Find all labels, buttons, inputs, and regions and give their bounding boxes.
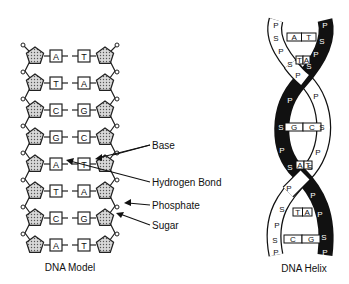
label-hydrogen-bond: Hydrogen Bond	[152, 177, 222, 188]
phosphate-letter: P	[313, 50, 318, 59]
phosphate-letter: P	[274, 221, 279, 230]
phosphate-left	[21, 124, 25, 128]
sugar-left	[26, 47, 43, 63]
phosphate-letter: P	[278, 47, 283, 56]
base-letter-left: A	[53, 241, 59, 251]
base-letter-right: T	[81, 52, 87, 62]
helix-base-pair: CG	[284, 235, 320, 244]
phosphate-right	[115, 178, 119, 182]
phosphate-letter: P	[310, 191, 315, 200]
phosphate-left	[21, 97, 25, 101]
phosphate-letter: P	[313, 92, 318, 101]
base-pair-row: CG	[21, 205, 119, 225]
label-base: Base	[152, 140, 175, 151]
sugar-right	[96, 47, 113, 63]
sugar-letter: S	[306, 62, 311, 71]
phosphate-letter: P	[287, 96, 292, 105]
base-letter-left: G	[52, 133, 59, 143]
sugar-letter: S	[272, 236, 277, 245]
dna-model: ATTACGGCATTACGAT	[21, 43, 119, 252]
base-pair-row: TA	[21, 70, 119, 90]
phosphate-letter: P	[279, 146, 284, 155]
base-pair-row: TA	[21, 178, 119, 198]
phosphate-letter: P	[317, 210, 322, 219]
phosphate-right	[115, 205, 119, 209]
sugar-letter: S	[319, 123, 324, 132]
caption-dna-model: DNA Model	[45, 262, 96, 273]
base-letter-right: C	[81, 133, 88, 143]
sugar-letter: S	[321, 233, 326, 242]
phosphate-letter: P	[286, 184, 291, 193]
base-pair-row: CG	[21, 97, 119, 117]
svg-text:G: G	[291, 123, 297, 132]
svg-text:G: G	[308, 235, 314, 244]
phosphate-right	[115, 43, 119, 47]
phosphate-left	[21, 43, 25, 47]
dna-diagram: ATTACGGCATTACGAT Base Hydrogen Bond Phos…	[0, 0, 349, 284]
base-letter-left: A	[53, 52, 59, 62]
label-phosphate: Phosphate	[152, 200, 200, 211]
phosphate-letter: P	[273, 21, 278, 30]
phosphate-right	[115, 97, 119, 101]
phosphate-left	[21, 70, 25, 74]
phosphate-letter: P	[315, 148, 320, 157]
sugar-letter: S	[273, 34, 278, 43]
phosphate-right	[115, 124, 119, 128]
label-sugar: Sugar	[152, 220, 179, 231]
base-letter-right: A	[81, 79, 87, 89]
phosphate-left	[21, 232, 25, 236]
sugar-letter: S	[319, 37, 324, 46]
svg-text:T: T	[306, 33, 311, 42]
sugar-letter: S	[279, 205, 284, 214]
base-letter-left: C	[53, 214, 60, 224]
base-letter-right: T	[81, 241, 87, 251]
phosphate-left	[21, 205, 25, 209]
svg-text:T: T	[297, 56, 302, 65]
helix-base-pair: AT	[287, 33, 316, 42]
phosphate-left	[21, 178, 25, 182]
base-letter-left: T	[53, 187, 59, 197]
base-letter-left: T	[53, 79, 59, 89]
base-letter-right: G	[80, 214, 87, 224]
helix-base-pair: TA	[293, 208, 312, 217]
svg-text:C: C	[309, 123, 315, 132]
phosphate-letter: P	[300, 74, 305, 83]
sugar-letter: S	[287, 60, 292, 69]
phosphate-letter: P	[322, 248, 327, 257]
svg-text:A: A	[297, 161, 303, 170]
base-letter-right: G	[80, 106, 87, 116]
caption-dna-helix: DNA Helix	[281, 263, 327, 274]
phosphate-letter: P	[322, 21, 327, 30]
phosphate-right	[115, 70, 119, 74]
svg-text:A: A	[292, 33, 298, 42]
helix-base-pair: GC	[285, 123, 321, 132]
base-pair-row: AT	[21, 43, 119, 63]
base-letter-right: A	[81, 187, 87, 197]
phosphate-letter: P	[273, 248, 278, 257]
phosphate-right	[115, 232, 119, 236]
svg-text:A: A	[305, 208, 311, 217]
svg-text:T: T	[295, 208, 300, 217]
base-letter-left: C	[53, 106, 60, 116]
sugar-letter: S	[278, 123, 283, 132]
base-pair-row: AT	[21, 232, 119, 252]
dna-helix: ATTAGCATTACG PSPSPPSPSPSPSPPSPSPPSPSPPSP	[272, 20, 327, 257]
base-pair-row: GC	[21, 124, 119, 144]
sugar-letter: S	[287, 163, 292, 172]
phosphate-left	[21, 151, 25, 155]
base-letter-left: A	[53, 160, 59, 170]
sugar-letter: S	[307, 163, 312, 172]
svg-text:C: C	[290, 235, 296, 244]
